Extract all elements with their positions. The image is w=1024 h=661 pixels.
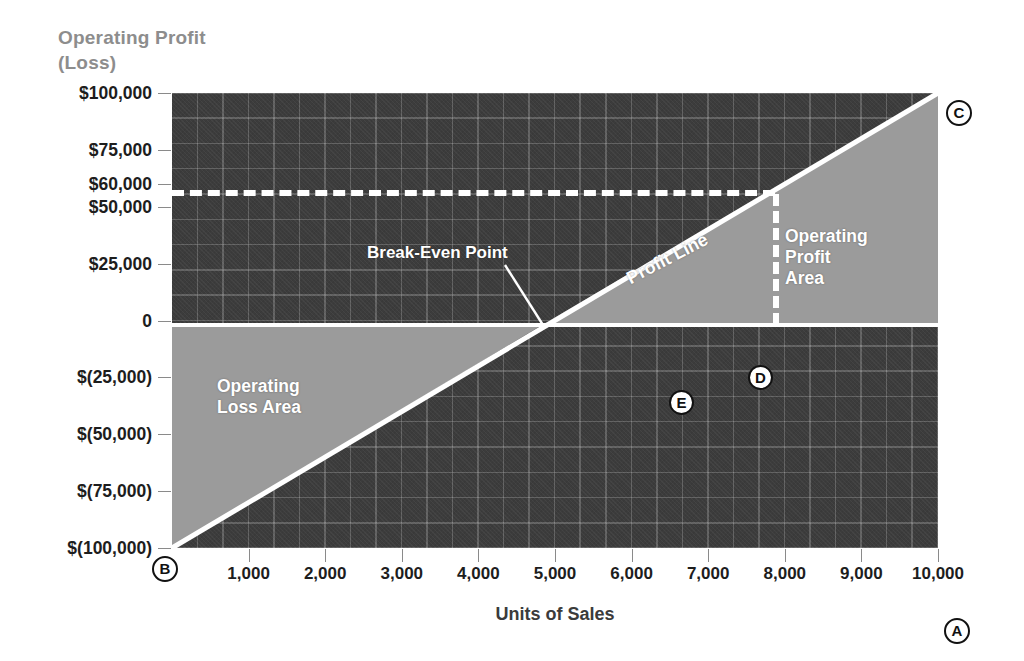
x-tick-label: 5,000	[534, 564, 577, 584]
callout-marker-c: C	[946, 100, 972, 126]
x-tick-label: 4,000	[457, 564, 500, 584]
x-tick-mark	[478, 549, 479, 562]
x-tick-label: 3,000	[381, 564, 424, 584]
x-tick-label: 8,000	[764, 564, 807, 584]
x-tick-mark	[555, 549, 556, 562]
x-tick-mark	[938, 549, 939, 562]
x-tick-mark	[325, 549, 326, 562]
x-tick-mark	[785, 549, 786, 562]
x-tick-mark	[402, 549, 403, 562]
callout-marker-b: B	[152, 556, 178, 582]
x-tick-label: 2,000	[304, 564, 347, 584]
callout-marker-a: A	[944, 618, 970, 644]
x-tick-mark	[861, 549, 862, 562]
chart-canvas: Operating Profit(Loss) $100,000$75,000$6…	[0, 0, 1024, 661]
x-tick-label: 6,000	[610, 564, 653, 584]
x-axis-title: Units of Sales	[172, 604, 938, 625]
x-tick-mark	[708, 549, 709, 562]
x-tick-label: 10,000	[912, 564, 964, 584]
x-tick-mark	[632, 549, 633, 562]
x-tick-label: 7,000	[687, 564, 730, 584]
x-tick-mark	[249, 549, 250, 562]
x-tick-label: 9,000	[840, 564, 883, 584]
x-tick-label: 1,000	[227, 564, 270, 584]
